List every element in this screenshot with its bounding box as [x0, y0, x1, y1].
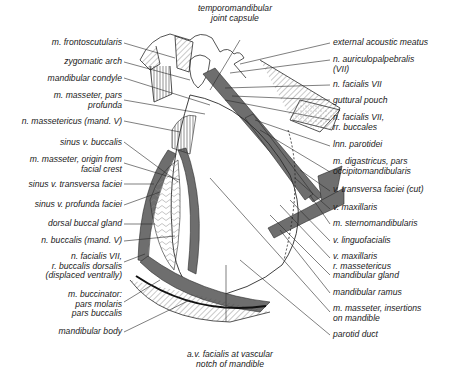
label-mandibular-ramus: mandibular ramus	[333, 288, 402, 298]
label-digastricus: m. digastricus, parsoccipitomandibularis	[333, 157, 411, 176]
label-line: pars buccalis	[68, 309, 122, 319]
label-lnn-parotidei: lnn. parotidei	[333, 140, 382, 150]
label-text: v. transversa faciei (cut)	[333, 184, 424, 194]
label-n-massetericus: n. massetericus (mand. V)	[22, 117, 122, 127]
label-mandibular-body: mandibular body	[58, 327, 122, 337]
label-external-acoustic-meatus: external acoustic meatus	[333, 38, 428, 48]
label-masseter-origin: m. masseter, origin fromfacial crest	[30, 155, 122, 174]
label-masseter-insertions: m. masseter, insertionson mandible	[333, 304, 421, 323]
label-text: mandibular gland	[333, 270, 399, 280]
label-text: m. frontoscutularis	[52, 37, 122, 47]
label-n-buccalis: n. buccalis (mand. V)	[41, 236, 122, 246]
label-text: n. facialis VII	[333, 79, 382, 89]
label-text: zygomatic arch	[64, 56, 122, 66]
label-line: rr. buccales	[333, 123, 384, 133]
facial-nerve-band	[203, 68, 344, 238]
label-text: mandibular ramus	[333, 287, 402, 297]
label-n-facialis-buccalis-dorsalis: n. facialis VII,r. buccalis dorsalis(dis…	[46, 252, 122, 281]
label-mandibular-condyle: mandibular condyle	[47, 74, 122, 84]
label-v-maxillaris: v. maxillaris	[333, 203, 377, 213]
label-text: m. sternomandibularis	[333, 218, 418, 228]
label-text: external acoustic meatus	[333, 37, 428, 47]
label-masseter-profunda: m. masseter, parsprofunda	[54, 91, 122, 110]
label-n-auriculopalpebralis: n. auriculopalpebralis(VII)	[333, 55, 414, 74]
label-text: sinus v. profunda faciei	[35, 199, 122, 209]
parotid-gland-cap	[172, 115, 196, 154]
label-text: sinus v. transversa faciei	[29, 179, 122, 189]
label-av-facialis: a.v. facialis at vascular notch of mandi…	[160, 350, 300, 369]
label-line: occipitomandibularis	[333, 167, 411, 177]
label-guttural-pouch: guttural pouch	[333, 96, 387, 106]
label-sinus-transversa: sinus v. transversa faciei	[29, 180, 122, 190]
label-line: (displaced ventrally)	[46, 271, 122, 281]
label-text: n. buccalis (mand. V)	[41, 235, 122, 245]
label-temporomandibular-joint-capsule: temporomandibular joint capsule	[170, 4, 300, 23]
label-text: sinus v. buccalis	[60, 137, 122, 147]
label-line: profunda	[54, 101, 122, 111]
label-text: mandibular condyle	[47, 73, 122, 83]
label-sinus-v-buccalis: sinus v. buccalis	[60, 138, 122, 148]
label-text: mandibular body	[58, 326, 122, 336]
label-parotid-duct: parotid duct	[333, 330, 378, 340]
label-frontoscutularis: m. frontoscutularis	[52, 38, 122, 48]
label-text: guttural pouch	[333, 95, 387, 105]
label-text: n. massetericus (mand. V)	[22, 116, 122, 126]
label-line: (VII)	[333, 65, 414, 75]
label-v-linguofacialis: v. linguofacialis	[333, 236, 391, 246]
label-text: v. maxillaris	[333, 202, 377, 212]
label-n-facialis: n. facialis VII	[333, 80, 382, 90]
label-zygomatic-arch: zygomatic arch	[64, 57, 122, 67]
label-text: v. linguofacialis	[333, 235, 391, 245]
label-line: joint capsule	[170, 14, 300, 24]
label-line: on mandible	[333, 314, 421, 324]
label-v-maxillaris-massetericus: v. maxillarisr. massetericus	[333, 252, 391, 271]
label-n-facialis-buccales: n. facialis VII,rr. buccales	[333, 113, 384, 132]
label-mandibular-gland: mandibular gland	[333, 271, 399, 281]
label-sinus-profunda: sinus v. profunda faciei	[35, 200, 122, 210]
label-dorsal-buccal-gland: dorsal buccal gland	[48, 219, 122, 229]
label-line: notch of mandible	[160, 360, 300, 370]
label-sternomandibularis: m. sternomandibularis	[333, 219, 418, 229]
label-text: lnn. parotidei	[333, 139, 382, 149]
label-v-transversa-faciei: v. transversa faciei (cut)	[333, 185, 424, 195]
label-line: facial crest	[30, 165, 122, 175]
label-text: parotid duct	[333, 329, 378, 339]
label-text: dorsal buccal gland	[48, 218, 122, 228]
label-buccinator: m. buccinator:pars molarispars buccalis	[68, 290, 122, 319]
